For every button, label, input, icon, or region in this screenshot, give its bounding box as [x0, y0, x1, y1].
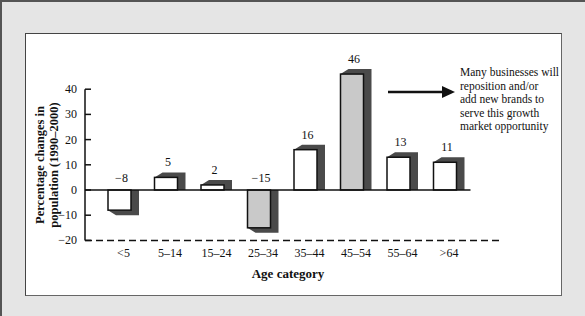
annotation-line: market opportunity: [460, 120, 570, 134]
x-tick-label: 55–64: [388, 246, 418, 260]
bar: [108, 190, 131, 210]
y-tick-label: 30: [65, 107, 77, 121]
bar-value-label: 5: [165, 155, 171, 169]
bar: [248, 190, 271, 228]
y-tick-label: −20: [58, 233, 77, 247]
x-tick-label: 35–44: [295, 246, 325, 260]
bar: [387, 157, 410, 190]
bar-value-label: 2: [212, 163, 218, 177]
bar: [294, 150, 317, 190]
bar-value-label: 16: [302, 128, 314, 142]
arrow-right-icon: [442, 86, 455, 98]
bar: [201, 185, 224, 190]
bar-value-label: 46: [348, 52, 360, 66]
annotation-line: add new brands to: [460, 93, 570, 107]
bar-value-label: −8: [115, 171, 128, 185]
bar: [341, 74, 364, 190]
annotation-line: reposition and/or: [460, 80, 570, 94]
x-tick-label: >64: [440, 246, 459, 260]
y-axis-title: Percentage changes inpopulation (1990–20…: [33, 102, 61, 227]
bar-value-label: −15: [252, 171, 271, 185]
y-axis-title-line: population (1990–2000): [47, 102, 61, 227]
y-axis-title-line: Percentage changes in: [33, 106, 47, 224]
annotation-line: serve this growth: [460, 107, 570, 121]
bar-chart: 403020100−10−20−8<555–14215–24−1525–3416…: [0, 0, 585, 316]
x-tick-label: <5: [117, 246, 130, 260]
x-tick-label: 45–54: [341, 246, 371, 260]
y-tick-label: 40: [65, 82, 77, 96]
y-tick-label: 0: [71, 183, 77, 197]
y-tick-label: 20: [65, 133, 77, 147]
bar: [434, 162, 457, 190]
y-tick-label: 10: [65, 158, 77, 172]
bar-value-label: 13: [395, 135, 407, 149]
bar-value-label: 11: [441, 140, 453, 154]
x-tick-label: 25–34: [248, 246, 278, 260]
x-axis-title: Age category: [252, 266, 325, 281]
bar: [155, 177, 178, 190]
annotation-line: Many businesses will: [460, 66, 570, 80]
x-tick-label: 5–14: [158, 246, 182, 260]
x-tick-label: 15–24: [202, 246, 232, 260]
y-tick-label: −10: [58, 208, 77, 222]
annotation-text: Many businesses will reposition and/or a…: [460, 66, 570, 134]
